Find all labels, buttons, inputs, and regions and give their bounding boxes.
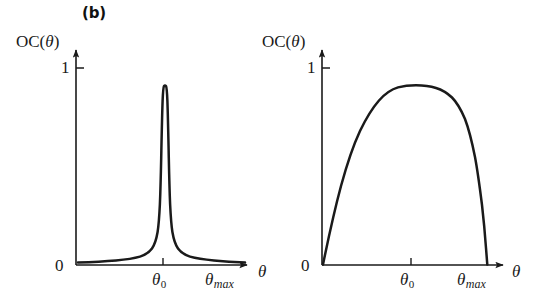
right-oc-curve <box>323 85 487 264</box>
left-oc-curve <box>78 85 245 262</box>
right-oc-curve-path <box>323 85 487 264</box>
figure-vector-layer <box>0 0 544 300</box>
left-oc-curve-path <box>78 85 245 262</box>
figure-panel-b: (b) OC(θ) 1 0 θ0 θmax θ OC(θ) 1 0 θ0 θma… <box>0 0 544 300</box>
